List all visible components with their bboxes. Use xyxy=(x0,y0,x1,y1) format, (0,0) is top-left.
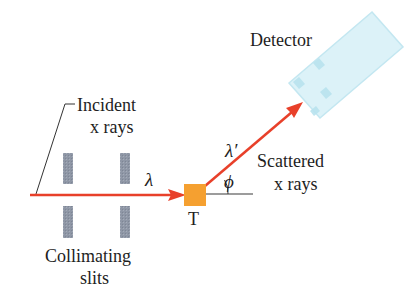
target-square xyxy=(184,184,206,206)
slit-left-top xyxy=(63,153,73,184)
scattered-wavelength-symbol: λ′ xyxy=(224,140,238,161)
detector-label: Detector xyxy=(250,30,312,50)
incident-wavelength-symbol: λ xyxy=(144,169,153,190)
scattering-angle-symbol: ϕ xyxy=(224,171,234,192)
incident-beam xyxy=(30,189,186,201)
incident-label-line2: x rays xyxy=(90,117,134,137)
target-label: T xyxy=(188,209,199,229)
incident-label-line1: Incident xyxy=(77,95,136,115)
compton-scattering-diagram: Detector Incident x rays λ T λ′ ϕ Scatte… xyxy=(0,0,415,301)
scattered-label-line2: x rays xyxy=(274,174,318,194)
collimating-label-line2: slits xyxy=(80,268,109,288)
scattered-label-line1: Scattered xyxy=(257,151,324,171)
collimating-label-line1: Collimating xyxy=(45,246,131,266)
slit-left-bottom xyxy=(63,206,73,238)
slit-right-top xyxy=(120,153,130,184)
detector-body xyxy=(289,12,403,118)
slit-right-bottom xyxy=(120,206,130,238)
detector xyxy=(289,12,403,118)
